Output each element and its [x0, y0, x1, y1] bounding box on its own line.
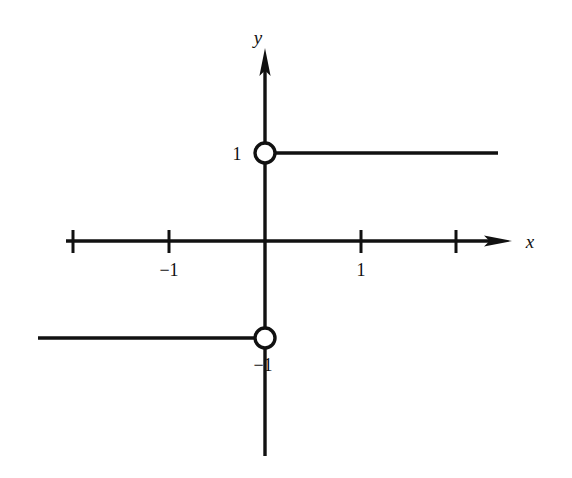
x-axis-group [66, 235, 512, 246]
y-axis-group [259, 48, 270, 456]
open-point-upper [255, 143, 275, 163]
x-tick-label-minus-one: −1 [159, 260, 178, 280]
open-point-lower [255, 328, 275, 348]
x-tick-label-plus-one: 1 [357, 260, 366, 280]
y-axis-label: y [252, 27, 263, 48]
x-axis-label: x [525, 231, 535, 252]
coordinate-plane: y x −1 1 1 −1 [0, 0, 572, 478]
y-tick-label-minus-one: −1 [253, 355, 272, 375]
y-tick-label-plus-one: 1 [233, 144, 242, 164]
graph-figure: y x −1 1 1 −1 [0, 0, 572, 478]
